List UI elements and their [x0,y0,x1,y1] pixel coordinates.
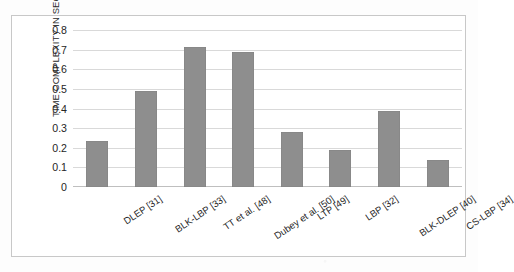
bar [329,150,351,187]
chart-frame: TIME COMPLEXITY IN SECONDS 0.80.70.60.50… [11,15,466,257]
bar [184,47,206,187]
bar [86,141,108,187]
x-tick-label: BLK-LBP [33] [173,193,227,235]
bar [427,160,449,187]
y-tick-label: 0.5 [52,83,67,95]
bars-group [73,30,462,187]
bar [135,91,157,187]
y-tick-label: 0.8 [52,24,67,36]
y-axis-title: TIME COMPLEXITY IN SECONDS [46,0,66,117]
bar [281,132,303,187]
y-tick-label: 0.3 [52,122,67,134]
x-tick-label: LBP [32] [364,193,401,223]
x-tick-label: BLK-DLEP [40] [417,193,477,238]
x-tick-label: DLEP [31] [122,193,164,226]
plot-area: 0.80.70.60.50.40.30.20.10 DLEP [31]BLK-L… [73,30,462,187]
y-tick-label: 0.6 [52,63,67,75]
y-tick-label: 0.7 [52,44,67,56]
y-tick-label: 0.1 [52,161,67,173]
y-tick-label: 0.4 [52,103,67,115]
bar [378,111,400,187]
y-tick-label: 0 [61,181,67,193]
y-tick-label: 0.2 [52,142,67,154]
bar [232,52,254,187]
x-tick-label: TT et al. [48] [221,193,272,232]
